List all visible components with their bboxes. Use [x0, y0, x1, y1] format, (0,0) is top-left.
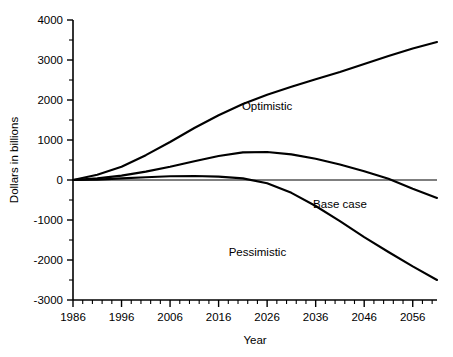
series-label-pessimistic: Pessimistic [229, 246, 287, 258]
y-axis: 40003000200010000-1000-2000-3000 [34, 14, 73, 306]
y-tick-label: -1000 [34, 214, 63, 226]
y-tick-label: -2000 [34, 254, 63, 266]
chart-container: 40003000200010000-1000-2000-3000 1986199… [0, 0, 453, 357]
y-tick-label: 2000 [37, 94, 63, 106]
x-tick-label: 1996 [109, 311, 135, 323]
y-tick-label: -3000 [34, 294, 63, 306]
line-chart: 40003000200010000-1000-2000-3000 1986199… [0, 0, 453, 357]
x-axis-title: Year [243, 334, 266, 346]
x-tick-label: 2036 [303, 311, 329, 323]
y-tick-label: 3000 [37, 54, 63, 66]
x-tick-label: 2026 [254, 311, 280, 323]
series-label-optimistic: Optimistic [242, 100, 293, 112]
series-label-base-case: Base case [313, 198, 367, 210]
x-axis: 19861996200620162026203620462056 [60, 300, 437, 323]
x-tick-label: 2016 [206, 311, 232, 323]
y-axis-title: Dollars in billions [8, 117, 20, 204]
x-tick-label: 1986 [60, 311, 86, 323]
data-series-group [73, 42, 437, 280]
series-line-base-case [73, 152, 437, 198]
x-tick-label: 2056 [400, 311, 426, 323]
x-tick-label: 2046 [351, 311, 377, 323]
y-tick-label: 1000 [37, 134, 63, 146]
y-tick-label: 4000 [37, 14, 63, 26]
series-line-pessimistic [73, 176, 437, 280]
x-tick-label: 2006 [157, 311, 183, 323]
y-tick-label: 0 [57, 174, 63, 186]
